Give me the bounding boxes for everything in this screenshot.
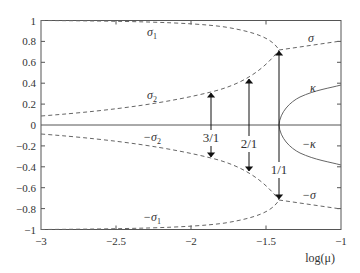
ratio-label-3-1: 3/1: [203, 130, 220, 145]
y-tick-label: 0.8: [22, 35, 36, 47]
curve-sigma1: [41, 21, 279, 51]
y-tick-label: 0.2: [22, 98, 36, 110]
label-neg-sigma1: −σ1: [143, 210, 161, 226]
y-tick-label: −0.2: [16, 140, 36, 152]
x-tick-label: −2.5: [106, 235, 126, 247]
x-tick-label: −3: [35, 235, 47, 247]
curve-sigma2: [41, 50, 279, 116]
y-tick-label: 1: [31, 15, 37, 27]
y-tick-label: −0.8: [16, 203, 36, 215]
x-axis-label: log(μ): [305, 251, 335, 265]
label-sigma2: σ2: [147, 88, 157, 104]
label-neg-kappa: −κ: [302, 137, 316, 151]
x-tick-label: −1.5: [256, 235, 276, 247]
ratio-label-2-1: 2/1: [241, 136, 258, 151]
bifurcation-chart: 1 0.8 0.6 0.4 0.2 0 −0.2 −0.4 −0.6 −0.8 …: [0, 0, 360, 273]
x-tick-label: −1: [335, 235, 347, 247]
y-tick-label: 0.4: [22, 77, 36, 89]
y-tick-label: −1: [24, 224, 36, 236]
ratio-label-1-1: 1/1: [271, 162, 288, 177]
y-tick-label: −0.4: [16, 161, 36, 173]
x-tick-labels: −3 −2.5 −2 −1.5 −1: [35, 235, 347, 247]
y-tick-label: 0: [31, 119, 37, 131]
x-tick-label: −2: [185, 235, 197, 247]
y-tick-labels: 1 0.8 0.6 0.4 0.2 0 −0.2 −0.4 −0.6 −0.8 …: [16, 15, 36, 236]
label-sigma: σ: [308, 31, 315, 45]
label-neg-sigma: −σ: [302, 188, 317, 202]
label-kappa: κ: [310, 81, 316, 95]
y-tick-label: 0.6: [22, 56, 36, 68]
label-sigma1: σ1: [147, 25, 157, 41]
label-neg-sigma2: −σ2: [143, 130, 161, 146]
y-tick-label: −0.6: [16, 182, 36, 194]
